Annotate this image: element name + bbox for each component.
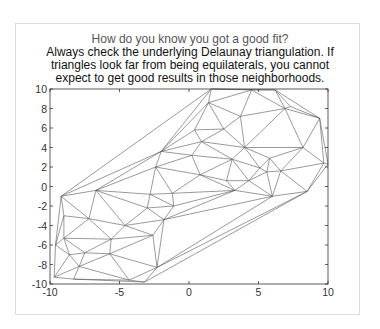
- triangle-edge: [150, 194, 174, 206]
- y-tick-label: -2: [38, 200, 47, 212]
- y-tick-label: 6: [41, 122, 47, 134]
- triangle-edge: [307, 163, 324, 191]
- triangle-edge: [208, 103, 240, 117]
- triangle-edge: [156, 167, 200, 175]
- triangle-edge: [96, 190, 150, 194]
- triangle-edge: [156, 167, 173, 193]
- triangle-edge: [85, 253, 110, 254]
- triangle-edge: [208, 90, 251, 103]
- triangle-edge: [96, 167, 156, 190]
- triangle-edge: [281, 171, 307, 191]
- triangle-edge: [145, 267, 158, 282]
- triangle-edge: [290, 107, 319, 119]
- triangle-edge: [202, 142, 245, 148]
- triangle-edge: [200, 175, 235, 191]
- x-tick-label: 10: [322, 286, 334, 298]
- triangle-edge: [157, 191, 307, 267]
- triangle-edge: [96, 190, 147, 208]
- triangle-edge: [285, 109, 303, 148]
- axes-box: [50, 89, 328, 284]
- triangle-edge: [129, 267, 157, 280]
- triangle-edge: [89, 219, 125, 226]
- y-tick-label: 0: [41, 181, 47, 193]
- triangle-edge: [172, 175, 200, 194]
- y-tick-label: -8: [38, 259, 47, 271]
- triangle-edge: [208, 103, 223, 129]
- triangle-edge: [192, 155, 200, 175]
- triangle-edge: [89, 219, 111, 239]
- triangle-edge: [61, 190, 96, 196]
- y-tick-label: -10: [32, 278, 47, 290]
- triangle-edge: [303, 118, 320, 147]
- triangle-edge: [89, 190, 96, 218]
- y-tick-label: 8: [41, 103, 47, 115]
- x-tick-label: 5: [256, 286, 262, 298]
- triangle-edge: [235, 190, 273, 196]
- triangle-edge: [285, 109, 320, 119]
- triangle-edge: [320, 118, 324, 163]
- triangle-edge: [64, 238, 85, 253]
- triangulation-plot: -10-50510-10-8-6-4-20246810: [0, 0, 380, 329]
- triangle-edge: [157, 220, 164, 268]
- y-tick-label: -4: [38, 220, 47, 232]
- triangle-edge: [147, 194, 150, 208]
- triangle-edge: [110, 254, 129, 280]
- triangle-edge: [303, 148, 324, 164]
- triangle-edge: [150, 193, 172, 194]
- triangle-edge: [147, 208, 164, 220]
- y-tick-label: 10: [35, 83, 47, 95]
- triangle-edge: [240, 116, 244, 147]
- x-tick-label: 0: [186, 286, 192, 298]
- triangle-edge: [150, 167, 156, 194]
- triangle-edge: [153, 235, 157, 267]
- triangle-edge: [96, 151, 161, 190]
- triangle-edge: [157, 196, 272, 267]
- triangle-edge: [249, 168, 260, 181]
- triangle-edge: [164, 196, 272, 219]
- triangle-edge: [227, 159, 233, 180]
- triangle-edge: [85, 239, 111, 253]
- triangle-edge: [224, 116, 241, 129]
- axis-ticks: -10-50510-10-8-6-4-20246810: [32, 83, 334, 298]
- triangle-edge: [69, 255, 79, 267]
- triangle-edge: [64, 216, 89, 219]
- triangle-edge: [161, 103, 208, 152]
- triangle-edge: [249, 181, 273, 197]
- triangle-edge: [61, 196, 89, 218]
- triangle-edge: [54, 277, 73, 279]
- triangle-edge: [172, 193, 173, 206]
- triangle-edge: [147, 206, 173, 208]
- triangle-edge: [267, 172, 273, 196]
- triangle-edge: [224, 129, 245, 148]
- triangle-edge: [145, 191, 308, 282]
- triangle-edge: [64, 238, 70, 255]
- triangle-edge: [202, 129, 224, 142]
- triangle-edge: [161, 130, 194, 151]
- triangle-edge: [156, 155, 192, 167]
- triangle-edge: [275, 90, 319, 118]
- triangle-edge: [232, 159, 260, 168]
- triangle-edge: [164, 190, 235, 219]
- x-tick-label: -5: [115, 286, 124, 298]
- triangle-edge: [200, 159, 232, 175]
- triangle-edge: [272, 171, 280, 196]
- triangle-edge: [227, 181, 235, 191]
- triangle-edge: [56, 245, 70, 255]
- triangle-edge: [200, 175, 226, 181]
- triangle-edge: [249, 172, 267, 181]
- triangle-edge: [235, 181, 249, 191]
- triangle-edge: [240, 90, 251, 116]
- triangle-edge: [125, 226, 153, 236]
- triangle-edge: [69, 253, 84, 255]
- triangle-edge: [307, 164, 328, 191]
- triangle-edge: [267, 171, 281, 172]
- triangle-edge: [285, 107, 291, 109]
- triangle-edge: [161, 151, 192, 155]
- y-tick-label: 4: [41, 142, 47, 154]
- triangle-edge: [61, 151, 161, 196]
- triangle-edge: [195, 130, 202, 142]
- y-tick-label: -6: [38, 239, 47, 251]
- triangulation-mesh: [54, 89, 328, 282]
- triangle-edge: [61, 196, 64, 216]
- triangle-edge: [110, 235, 153, 254]
